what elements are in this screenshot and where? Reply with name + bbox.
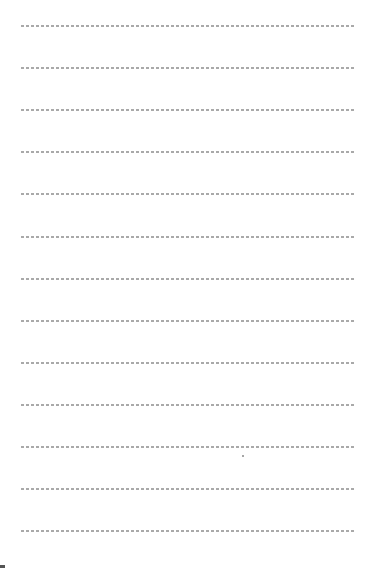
ruled-line-11 <box>21 446 356 448</box>
ruled-line-7 <box>21 278 356 280</box>
ruled-line-9 <box>21 362 356 364</box>
stray-mark <box>242 455 244 457</box>
ruled-line-10 <box>21 404 356 406</box>
lined-paper-page <box>0 0 381 571</box>
ruled-line-6 <box>21 236 356 238</box>
ruled-line-1 <box>21 25 356 27</box>
ruled-line-4 <box>21 151 356 153</box>
corner-mark <box>0 565 5 568</box>
ruled-line-12 <box>21 488 356 490</box>
ruled-line-3 <box>21 109 356 111</box>
ruled-line-8 <box>21 320 356 322</box>
ruled-line-5 <box>21 193 356 195</box>
ruled-line-2 <box>21 67 356 69</box>
ruled-line-13 <box>21 530 356 532</box>
